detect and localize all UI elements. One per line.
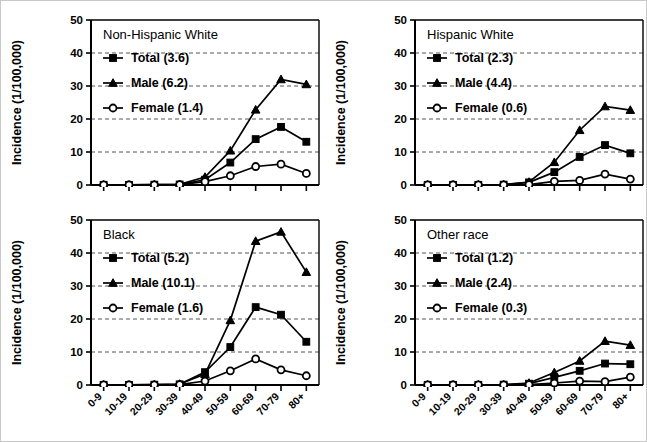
legend-label: Male (6.2) [131, 76, 188, 90]
data-marker-circle [227, 172, 234, 179]
data-marker-circle [627, 374, 634, 381]
plot-frame [415, 20, 643, 185]
x-tick-label: 20-29 [127, 390, 155, 418]
y-tick-label: 40 [70, 47, 83, 59]
y-tick-label: 20 [394, 113, 407, 125]
data-marker-square [278, 311, 285, 318]
y-tick-label: 20 [70, 113, 83, 125]
x-tick-label: 70-79 [578, 390, 606, 418]
legend-label: Female (0.6) [455, 101, 527, 115]
data-marker-square [303, 138, 310, 145]
data-marker-square [252, 136, 259, 143]
x-tick-label: 40-49 [502, 390, 530, 418]
data-marker-circle [303, 170, 310, 177]
legend-item-2: Male (4.4) [427, 76, 512, 90]
y-tick-label: 50 [394, 214, 407, 226]
legend-label: Total (2.3) [455, 51, 513, 65]
y-tick-label: 50 [394, 14, 407, 26]
data-marker-square [303, 338, 310, 345]
data-marker-triangle [226, 316, 235, 324]
y-tick-label: 50 [70, 214, 83, 226]
panel-svg: 01020304050Incidence (1/100,000)Non-Hisp… [1, 1, 324, 222]
panel-title: Non-Hispanic White [103, 27, 218, 42]
y-tick-label: 10 [394, 346, 407, 358]
y-tick-label: 30 [394, 80, 407, 92]
legend-item-3: Female (1.4) [103, 101, 203, 115]
legend-label: Male (4.4) [455, 76, 512, 90]
data-marker-square [434, 255, 441, 262]
data-marker-square [252, 304, 259, 311]
chart-panel-4: 01020304050Incidence (1/100,000)0-910-19… [325, 201, 647, 422]
data-marker-circle [576, 378, 583, 385]
y-tick-label: 30 [70, 80, 83, 92]
chart-panel-3: 01020304050Incidence (1/100,000)0-910-19… [1, 201, 324, 422]
series-2 [99, 75, 310, 188]
data-marker-circle [110, 105, 117, 112]
y-tick-label: 20 [394, 313, 407, 325]
y-tick-label: 0 [77, 379, 83, 391]
data-marker-circle [202, 178, 209, 185]
data-marker-square [110, 55, 117, 62]
data-marker-circle [602, 171, 609, 178]
data-marker-circle [110, 305, 117, 312]
data-marker-triangle [277, 75, 286, 83]
legend-item-2: Male (2.4) [427, 276, 512, 290]
legend: Total (2.3)Male (4.4)Female (0.6) [427, 51, 527, 115]
x-tick-label: 30-39 [153, 390, 181, 418]
x-tick-label: 50-59 [527, 390, 555, 418]
series-group [423, 102, 634, 188]
legend-label: Female (1.4) [131, 101, 203, 115]
series-group [99, 75, 310, 188]
y-tick-label: 40 [70, 247, 83, 259]
x-tick-label: 60-69 [553, 390, 581, 418]
y-tick-label: 0 [401, 179, 407, 191]
legend-label: Female (1.6) [131, 301, 203, 315]
data-marker-square [227, 159, 234, 166]
gridlines [91, 53, 319, 152]
y-tick-label: 50 [70, 14, 83, 26]
data-marker-square [627, 150, 634, 157]
data-marker-circle [278, 161, 285, 168]
legend-label: Male (2.4) [455, 276, 512, 290]
legend-label: Total (1.2) [455, 251, 513, 265]
x-tick-label: 80+ [286, 390, 307, 411]
legend: Total (1.2)Male (2.4)Female (0.3) [427, 251, 527, 315]
data-marker-square [110, 255, 117, 262]
y-axis-title: Incidence (1/100,000) [334, 240, 348, 365]
y-tick-label: 40 [394, 47, 407, 59]
y-axis: 01020304050 [394, 214, 415, 391]
plot-frame [91, 220, 319, 385]
x-tick-label: 30-39 [477, 390, 505, 418]
data-marker-triangle [226, 146, 235, 154]
data-marker-square [278, 124, 285, 131]
panel-title: Black [103, 227, 135, 242]
y-tick-label: 10 [70, 146, 83, 158]
data-marker-circle [627, 176, 634, 183]
gridlines [415, 253, 643, 352]
data-marker-circle [434, 105, 441, 112]
data-marker-circle [551, 178, 558, 185]
data-marker-circle [252, 163, 259, 170]
data-marker-square [434, 55, 441, 62]
x-tick-label: 70-79 [254, 390, 282, 418]
x-tick-label: 10-19 [426, 390, 454, 418]
data-marker-triangle [601, 102, 610, 110]
data-marker-square [627, 361, 634, 368]
legend-label: Male (10.1) [131, 276, 195, 290]
legend-item-2: Male (6.2) [103, 76, 188, 90]
data-marker-square [551, 169, 558, 176]
data-marker-square [227, 344, 234, 351]
x-tick-label: 20-29 [451, 390, 479, 418]
series-group [423, 337, 634, 389]
gridlines [415, 53, 643, 152]
panel-title: Other race [427, 227, 488, 242]
legend-item-3: Female (0.3) [427, 301, 527, 315]
x-tick-label: 50-59 [203, 390, 231, 418]
data-marker-circle [551, 380, 558, 387]
data-marker-square [576, 154, 583, 161]
panel-svg: 01020304050Incidence (1/100,000)0-910-19… [325, 201, 647, 422]
panel-svg: 01020304050Incidence (1/100,000)0-910-19… [1, 201, 324, 422]
y-tick-label: 0 [401, 379, 407, 391]
data-marker-circle [227, 367, 234, 374]
y-tick-label: 40 [394, 247, 407, 259]
